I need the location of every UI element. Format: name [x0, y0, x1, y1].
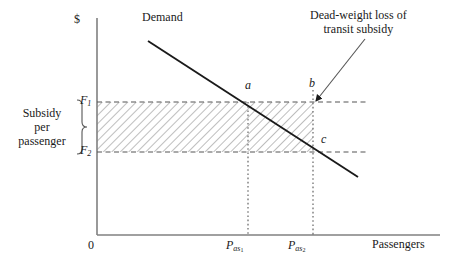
quantity-tick-label-Pas2: Pas2: [288, 238, 305, 254]
price-tick-label-F1: F1: [80, 93, 91, 109]
deadweight-loss-annotation: Dead-weight loss of transit subsidy: [310, 8, 407, 36]
demand-curve-label: Demand: [142, 10, 183, 24]
point-label-c: c: [321, 132, 326, 146]
transit-subsidy-diagram: $ Demand Dead-weight loss of transit sub…: [0, 0, 457, 265]
price-tick-F2-subscript: 2: [87, 149, 91, 158]
deadweight-loss-line-1: Dead-weight loss of: [310, 8, 407, 22]
subsidy-label-line-3: passenger: [6, 134, 78, 148]
origin-label: 0: [88, 238, 94, 252]
deadweight-loss-leader-line: [316, 39, 365, 101]
price-tick-label-F2: F2: [80, 143, 91, 159]
deadweight-loss-line-2: transit subsidy: [310, 22, 407, 36]
quantity-tick-Pas1-subsubscript: 1: [240, 247, 243, 253]
quantity-tick-label-Pas1: Pas1: [226, 238, 243, 254]
subsidy-per-passenger-label: Subsidy per passenger: [6, 106, 78, 148]
point-label-a: a: [245, 78, 251, 92]
x-axis-label: Passengers: [372, 237, 425, 251]
point-label-b: b: [309, 76, 315, 90]
subsidy-label-line-2: per: [6, 120, 78, 134]
y-axis-label: $: [74, 12, 80, 26]
price-tick-F1-subscript: 1: [87, 99, 91, 108]
quantity-tick-Pas2-subsubscript: 2: [302, 247, 305, 253]
subsidy-label-line-1: Subsidy: [6, 106, 78, 120]
